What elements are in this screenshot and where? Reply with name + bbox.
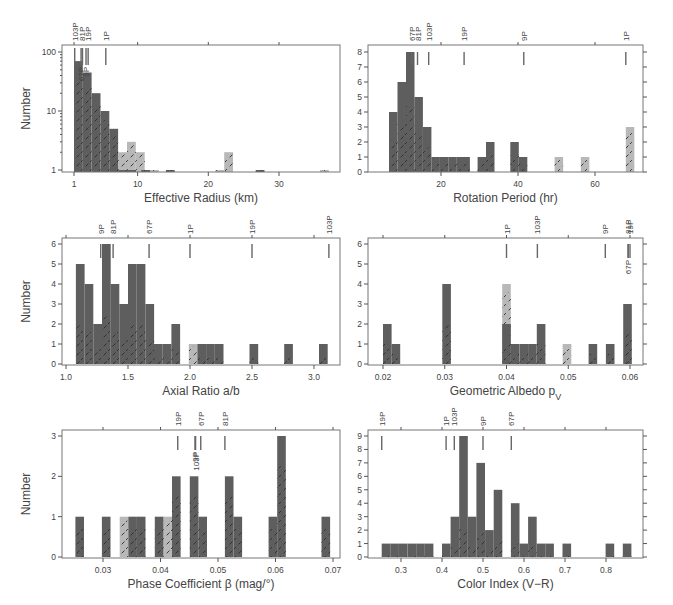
hatch-overlay: [145, 340, 154, 364]
x-tick-label: 0.7: [559, 565, 571, 575]
y-tick-label: 7: [357, 458, 362, 468]
hatch-overlay: [382, 554, 391, 557]
hatch-overlay: [224, 154, 233, 172]
x-tick-label: 2.0: [184, 372, 196, 382]
y-tick-label: 8: [357, 47, 362, 57]
comet-marker-label: 19P: [460, 27, 469, 41]
hatch-overlay: [519, 164, 528, 172]
comet-marker-label: 9P: [479, 416, 488, 426]
chart-panel-axial-ratio: 1.01.52.02.53.00123456Axial Ratio a/bNum…: [19, 215, 340, 398]
y-tick-label: 3: [357, 122, 362, 132]
hatch-overlay: [623, 334, 632, 364]
hatch-overlay: [502, 344, 511, 364]
hatch-overlay: [111, 332, 120, 364]
hatch-overlay: [128, 527, 137, 557]
hatch-overlay: [383, 344, 392, 364]
y-tick-label: 1: [51, 165, 56, 175]
hatch-overlay: [416, 554, 425, 557]
comet-marker-label: 9P: [97, 224, 106, 234]
x-tick-label: 0.02: [375, 372, 392, 382]
hatch-overlay: [118, 154, 127, 172]
chart-panel-effective-radius: 1102030110100Effective Radius (km)Number…: [19, 22, 340, 205]
y-tick-label: 0: [51, 359, 56, 369]
x-tick-label: 0.04: [498, 372, 515, 382]
x-tick-label: 0.3: [395, 565, 407, 575]
y-tick-label: 3: [357, 299, 362, 309]
y-tick-label: 6: [357, 77, 362, 87]
hatch-overlay: [520, 554, 529, 557]
y-tick-label: 4: [51, 279, 56, 289]
hatch-overlay: [442, 554, 451, 557]
x-axis-label: Geometric Albedo pV: [450, 384, 561, 402]
comet-marker-label: 67P: [624, 260, 633, 274]
hatch-overlay: [478, 164, 487, 172]
chart-panel-phase-coefficient: 0.030.040.050.060.070123Phase Coefficien…: [19, 412, 342, 591]
comet-marker-label: 19P: [378, 412, 387, 426]
hatch-overlay: [120, 521, 129, 557]
chart-panel-geometric-albedo: 0.020.030.040.050.060123456Geometric Alb…: [357, 215, 647, 402]
hatch-overlay: [75, 527, 84, 557]
comet-markers: 19P9P103P67P81P: [174, 412, 230, 471]
hatch-overlay: [528, 354, 537, 364]
histogram-bars: [76, 244, 328, 364]
x-axis-label-subscript: V: [555, 392, 561, 402]
y-tick-label: 3: [357, 512, 362, 522]
y-tick-label: 4: [357, 279, 362, 289]
comet-marker-label: 1P: [186, 224, 195, 234]
x-tick-label: 0.06: [622, 372, 639, 382]
comet-marker-label: 1P: [102, 31, 111, 41]
hatch-overlay: [494, 540, 503, 557]
hatch-overlay: [485, 550, 494, 557]
comet-marker-label: 19P: [248, 220, 257, 234]
hatch-overlay: [528, 547, 537, 557]
hatch-overlay: [128, 324, 137, 364]
hatch-overlay: [448, 164, 457, 172]
x-tick-label: 0.05: [560, 372, 577, 382]
hatch-overlay: [93, 348, 102, 364]
hatch-overlay: [197, 356, 206, 364]
comet-marker-label: 103P: [425, 22, 434, 41]
y-axis: 0123456: [51, 239, 62, 369]
x-tick-label: 0.07: [325, 565, 342, 575]
hatch-overlay: [389, 139, 398, 172]
y-tick-label: 0: [357, 552, 362, 562]
hatch-overlay: [172, 497, 181, 558]
comet-marker-label: 103P: [450, 407, 459, 426]
hatch-overlay: [101, 120, 110, 172]
comet-marker-label: 67P: [197, 412, 206, 426]
y-axis-label: Number: [19, 87, 33, 130]
x-tick-label: 20: [436, 179, 446, 189]
y-tick-label: 1: [357, 339, 362, 349]
x-tick-label: 0.06: [267, 565, 284, 575]
hatch-overlay: [206, 356, 215, 364]
hatch-overlay: [510, 156, 519, 173]
hatch-overlay: [431, 164, 440, 172]
x-tick-label: 10: [133, 179, 143, 189]
y-tick-label: 6: [357, 471, 362, 481]
x-axis-label: Color Index (V−R): [457, 577, 553, 591]
x-axis-label: Phase Coefficient β (mag/°): [128, 577, 275, 591]
comet-markers: 19P1P103P9P67P: [378, 407, 517, 450]
comet-markers: 9P81P67P1P19P103P: [97, 215, 334, 258]
x-tick-label: 0.6: [518, 565, 530, 575]
hatch-overlay: [163, 521, 172, 557]
hatch-overlay: [109, 135, 118, 172]
hatch-overlay: [406, 106, 415, 172]
x-axis-label: Rotation Period (hr): [453, 191, 558, 205]
chart-panel-color-index: 0.30.40.50.60.70.80123456789Color Index …: [357, 407, 647, 591]
hatch-overlay: [545, 554, 554, 557]
hatch-overlay: [486, 156, 495, 173]
hatch-overlay: [442, 324, 451, 364]
x-tick-label: 0.4: [436, 565, 448, 575]
y-tick-label: 2: [357, 319, 362, 329]
histogram-bars: [75, 436, 330, 557]
x-axis-label: Effective Radius (km): [144, 191, 258, 205]
histogram-bars: [74, 61, 329, 172]
hatch-overlay: [137, 324, 146, 364]
hatch-overlay: [425, 554, 434, 557]
histogram-bars: [383, 284, 632, 364]
hatch-overlay: [198, 527, 207, 557]
hatch-overlay: [154, 356, 163, 364]
hatch-overlay: [250, 356, 259, 364]
hatch-overlay: [537, 554, 546, 557]
